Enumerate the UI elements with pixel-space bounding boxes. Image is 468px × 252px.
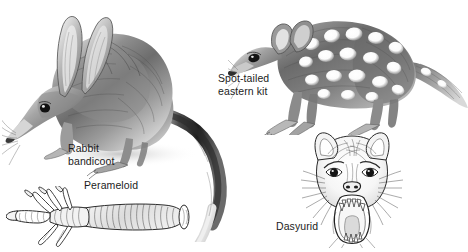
caption-dasyurid: Dasyurid — [276, 220, 318, 233]
caption-spot-tailed-eastern-kit: Spot-tailed eastern kit — [218, 72, 269, 97]
caption-perameloid: Perameloid — [84, 179, 138, 192]
perameloid-foot-illustration — [6, 186, 211, 248]
caption-rabbit-bandicoot: Rabbit bandicoot — [68, 142, 114, 167]
illustration-plate: Rabbit bandicoot Spot-tailed eastern kit… — [0, 0, 468, 252]
spot-tailed-quoll-illustration — [228, 0, 468, 135]
